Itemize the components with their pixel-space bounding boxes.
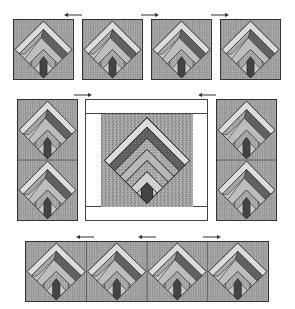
pressing-arrow-right-icon [141,12,159,18]
pressing-arrow-right-icon [203,234,221,240]
quilt-block [82,19,143,80]
left-block-column [17,99,78,221]
quilt-block [151,19,212,80]
pressing-arrow-left-icon [64,12,82,18]
quilt-block [220,19,281,80]
pressing-arrow-left-icon [138,234,156,240]
pressing-arrow-right-icon [211,12,229,18]
cropped-caption [0,0,295,4]
center-quilt-block [101,114,193,207]
top-border-strip [86,100,207,114]
bottom-block-strip [25,241,269,302]
right-block-column [216,99,277,221]
pressing-arrow-left-icon [76,234,94,240]
pressing-arrow-left-icon [198,92,216,98]
quilt-block [13,19,74,80]
pressing-arrow-right-icon [74,92,92,98]
bottom-border-strip [86,206,207,220]
center-panel [85,99,208,221]
